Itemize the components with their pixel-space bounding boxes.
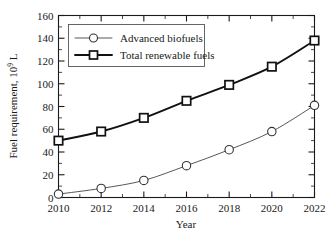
series-advanced-biofuels (54, 101, 318, 198)
data-point-circle-marker[interactable] (97, 184, 105, 192)
y-axis-title: Fuel requirement, 109 L (6, 53, 20, 158)
circle-marker-icon (90, 34, 98, 42)
data-point-circle-marker[interactable] (310, 101, 318, 109)
y-tick-label: 80 (43, 101, 55, 113)
y-tick-label: 40 (43, 146, 55, 158)
legend-entry-advanced-biofuels[interactable]: Advanced biofuels (75, 32, 203, 44)
data-point-square-marker[interactable] (97, 127, 105, 135)
data-point-circle-marker[interactable] (140, 176, 148, 184)
data-point-square-marker[interactable] (225, 81, 233, 89)
y-tick-label: 60 (43, 123, 55, 135)
x-tick-label: 2010 (48, 202, 71, 214)
x-tick-label: 2014 (133, 202, 156, 214)
series-line (59, 105, 315, 194)
legend-label-advanced-biofuels: Advanced biofuels (120, 32, 203, 44)
data-point-square-marker[interactable] (140, 114, 148, 122)
data-point-circle-marker[interactable] (268, 127, 276, 135)
data-point-square-marker[interactable] (310, 36, 318, 44)
data-point-circle-marker[interactable] (225, 146, 233, 154)
data-point-square-marker[interactable] (268, 62, 276, 70)
y-axis-title-main: Fuel requirement, 10 (7, 66, 19, 158)
y-tick-label: 160 (37, 10, 54, 22)
y-tick-label: 140 (37, 32, 54, 44)
x-tick-label: 2012 (90, 202, 112, 214)
x-axis-title: Year (176, 218, 197, 230)
data-point-circle-marker[interactable] (182, 161, 190, 169)
chart-figure: 020406080100120140160 201020122014201620… (0, 0, 335, 235)
y-tick-label: 120 (37, 55, 54, 67)
x-tick-label: 2022 (304, 202, 326, 214)
line-chart: 020406080100120140160 201020122014201620… (0, 0, 335, 235)
x-tick-label: 2020 (261, 202, 284, 214)
x-tick-label: 2016 (176, 202, 199, 214)
y-tick-label: 20 (43, 169, 55, 181)
data-point-circle-marker[interactable] (54, 190, 62, 198)
legend-entry-total-renewable-fuels[interactable]: Total renewable fuels (75, 49, 215, 61)
legend-label-total-renewable-fuels: Total renewable fuels (120, 49, 215, 61)
legend: Advanced biofuels Total renewable fuels (69, 25, 215, 67)
y-tick-label: 100 (37, 78, 54, 90)
data-point-square-marker[interactable] (182, 97, 190, 105)
data-point-square-marker[interactable] (54, 136, 62, 144)
square-marker-icon (90, 51, 98, 59)
x-tick-label: 2018 (218, 202, 241, 214)
y-axis-title-unit: L (7, 53, 19, 63)
